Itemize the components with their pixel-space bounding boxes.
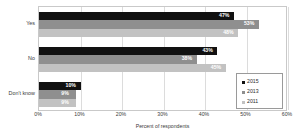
bar-no-2011 [39,64,226,72]
y-axis-category-labels: YesNoDon't know [0,6,35,111]
legend-label: 2011 [247,99,258,104]
bar-row: 43% [39,47,286,55]
legend-label: 2013 [247,89,259,94]
bar-value-label: 47% [219,13,229,18]
bar-value-label: 9% [61,101,69,106]
bar-row: 47% [39,12,286,20]
y-axis-label-don-t-know: Don't know [9,91,36,96]
bar-value-label: 48% [223,31,233,36]
gridline [288,7,289,110]
x-axis-title: Percent of respondents [38,124,287,129]
bar-row: 38% [39,55,286,63]
y-axis-label-yes: Yes [26,21,35,26]
bar-yes-2013 [39,20,259,28]
x-axis-ticks: 0%10%20%30%40%50%60% [38,112,287,121]
legend-item-2013[interactable]: 2013 [242,87,282,97]
bar-no-2013 [39,55,197,63]
bar-value-label: 43% [202,48,212,53]
legend-label: 2015 [247,79,259,84]
x-tick-label: 30% [157,112,167,117]
bar-value-label: 10% [66,83,76,88]
legend-swatch-icon [242,91,245,94]
x-tick-label: 0% [34,112,42,117]
x-tick-label: 20% [116,112,126,117]
bar-row: 53% [39,20,286,28]
bar-no-2015 [39,47,217,55]
bar-group: 47%53%48% [39,12,286,38]
bar-yes-2015 [39,12,234,20]
x-tick-label: 50% [240,112,250,117]
bar-chart: YesNoDon't know 47%53%48%43%38%45%10%9%9… [0,0,298,136]
y-axis-label-no: No [28,56,35,61]
legend-item-2015[interactable]: 2015 [242,77,282,87]
bar-row: 45% [39,64,286,72]
bar-value-label: 45% [211,66,221,71]
x-tick-label: 10% [74,112,84,117]
bar-row: 48% [39,29,286,37]
legend-swatch-icon [242,101,245,104]
legend-item-2011[interactable]: 2011 [242,97,282,107]
bar-value-label: 38% [182,57,192,62]
bar-value-label: 9% [61,92,69,97]
bar-don-t-know-2011 [39,99,76,107]
bar-yes-2011 [39,29,238,37]
legend-swatch-icon [242,81,245,84]
bar-don-t-know-2013 [39,90,76,98]
bar-value-label: 53% [244,22,254,27]
bar-group: 43%38%45% [39,47,286,73]
x-tick-label: 40% [199,112,209,117]
x-tick-label: 60% [282,112,292,117]
chart-legend: 201520132011 [236,73,283,109]
